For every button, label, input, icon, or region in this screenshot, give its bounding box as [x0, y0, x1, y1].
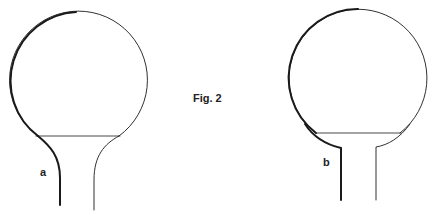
flask-a-bulb-left-thick	[11, 12, 76, 136]
flask-a	[10, 11, 148, 210]
figure-canvas	[0, 0, 430, 212]
flask-b	[289, 9, 427, 200]
flask-b-bulb-left-thick	[289, 9, 358, 133]
flask-b-neck-right	[376, 124, 410, 200]
panel-label-b: b	[323, 156, 330, 168]
figure-caption: Fig. 2	[193, 92, 222, 104]
flask-a-neck-right	[94, 136, 119, 210]
panel-label-a: a	[40, 166, 46, 178]
flask-a-bulb	[10, 11, 148, 136]
